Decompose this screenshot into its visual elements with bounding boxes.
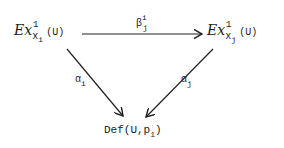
argument: (U) <box>46 27 64 38</box>
bottom-node: Def(U,p1) <box>104 124 162 136</box>
def-text: Def(U,p <box>104 124 150 136</box>
superscript: 1 <box>33 20 38 30</box>
subscript: 1 <box>150 130 155 139</box>
arrow-right <box>146 49 213 117</box>
source-node: Exxi1(U) <box>14 22 64 38</box>
argument: (U) <box>239 27 257 38</box>
label-top-arrow: βij <box>136 18 148 29</box>
label-right-arrow: αj <box>181 74 192 85</box>
subscript-index: i <box>38 35 43 44</box>
subscript: i <box>81 79 86 88</box>
ex-script-symbol: Ex <box>14 22 32 38</box>
target-node: Exxj1(U) <box>207 22 257 38</box>
superscript: 1 <box>226 20 231 30</box>
ex-script-symbol: Ex <box>207 22 225 38</box>
label-left-arrow: αi <box>75 74 86 85</box>
close-paren: ) <box>155 124 162 136</box>
subscript: j <box>143 23 148 32</box>
superscript: i <box>142 13 147 22</box>
subscript: j <box>187 79 192 88</box>
subscript-index: j <box>231 35 236 44</box>
